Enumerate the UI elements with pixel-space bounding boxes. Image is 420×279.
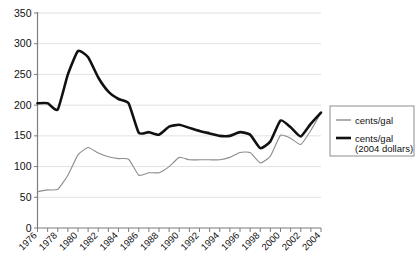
y-axis-labels-group: 050100150200250300350 xyxy=(14,7,32,234)
x-axis-label-1990: 1990 xyxy=(158,230,181,253)
legend-label-real-2004-sub: (2004 dollars) xyxy=(355,143,413,154)
x-axis-label-2002: 2002 xyxy=(279,230,302,253)
x-axis-label-1988: 1988 xyxy=(138,230,161,253)
x-axis-labels-group: 1976197819801982198419861988199019921994… xyxy=(16,230,322,253)
x-axis-label-1982: 1982 xyxy=(77,230,100,253)
y-axis-label-300: 300 xyxy=(14,37,32,49)
x-axis-label-1976: 1976 xyxy=(16,230,39,253)
x-axis-label-2004: 2004 xyxy=(300,230,323,253)
y-axis-label-100: 100 xyxy=(14,160,32,172)
x-axis-label-1986: 1986 xyxy=(117,230,140,253)
x-axis-label-1980: 1980 xyxy=(57,230,80,253)
y-axis-label-200: 200 xyxy=(14,99,32,111)
x-tickmarks-group xyxy=(38,228,322,232)
y-axis-label-350: 350 xyxy=(14,7,32,19)
series-line-real-2004 xyxy=(38,51,322,148)
x-axis-label-1992: 1992 xyxy=(178,230,201,253)
x-axis-label-1996: 1996 xyxy=(219,230,242,253)
y-axis-label-250: 250 xyxy=(14,68,32,80)
legend-label-nominal: cents/gal xyxy=(355,115,393,126)
axes-group xyxy=(34,12,321,228)
x-axis-label-1998: 1998 xyxy=(239,230,262,253)
y-axis-label-50: 50 xyxy=(20,191,32,203)
gridlines-group xyxy=(38,13,322,197)
x-axis-label-1978: 1978 xyxy=(36,230,59,253)
gasoline-price-chart: 050100150200250300350 197619781980198219… xyxy=(0,0,420,279)
y-axis-label-150: 150 xyxy=(14,129,32,141)
series-group xyxy=(38,51,322,192)
x-axis-label-1994: 1994 xyxy=(198,230,221,253)
chart-legend: cents/galcents/gal(2004 dollars) xyxy=(330,106,414,156)
x-axis-label-1984: 1984 xyxy=(97,230,120,253)
chart-canvas: 050100150200250300350 197619781980198219… xyxy=(0,0,420,279)
x-axis-label-2000: 2000 xyxy=(259,230,282,253)
